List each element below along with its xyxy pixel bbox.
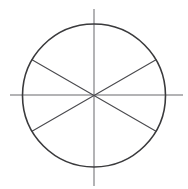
figure-canvas [0,0,188,189]
circle-sector-diagram [0,0,188,189]
